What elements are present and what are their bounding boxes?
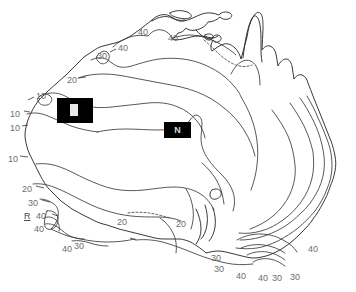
redaction-glyph-n: N (173, 126, 182, 135)
contour-40-sw-b (45, 224, 84, 239)
contour-interior-branch-b (186, 189, 193, 229)
contour-south-coast-run (136, 240, 253, 265)
contour-label: 10 (8, 155, 18, 164)
contour-label: 20 (22, 185, 32, 194)
contour-map-figure: 40 40 40 30 20 10 10 10 10 20 30 40 40 4… (0, 0, 356, 292)
contour-20-south-center (36, 164, 214, 210)
north-island-a (170, 11, 191, 19)
australia-contour-map-svg (0, 0, 356, 292)
contour-label: 30 (97, 52, 107, 61)
redaction-box-center: N (164, 122, 191, 138)
contour-label: 40 (258, 274, 268, 283)
lake-eyre (210, 189, 221, 199)
contour-se-loop-a (237, 234, 297, 252)
contour-label: 40 (138, 28, 148, 37)
contour-20-north (78, 74, 255, 156)
contour-label: 30 (28, 199, 38, 208)
contour-ne-interior (240, 95, 258, 190)
contour-label: 40 (34, 225, 44, 234)
contour-label: 10 (36, 92, 46, 101)
contour-ne-peak (231, 60, 260, 85)
contour-bight-branch (160, 218, 176, 253)
st-vincent-gulf (209, 208, 215, 241)
contour-label: 30 (211, 254, 221, 263)
annotation-r: R (24, 212, 31, 221)
contour-se-loop-d (253, 259, 285, 266)
contour-east-30 (240, 98, 324, 240)
contour-label: 30 (214, 265, 224, 274)
contour-label: 10 (10, 124, 20, 133)
contour-label: 40 (168, 34, 178, 43)
contour-label: 40 (62, 245, 72, 254)
eyre-peninsula (196, 209, 201, 244)
contour-label: 30 (290, 273, 300, 282)
contour-label: 40 (36, 212, 46, 221)
redaction-glyph-rect (70, 104, 78, 116)
inland-features (196, 189, 221, 244)
contour-label: 40 (118, 44, 128, 53)
contour-east-20 (239, 103, 314, 233)
contour-label: 10 (10, 110, 20, 119)
contour-label: 30 (272, 274, 282, 283)
contour-east-40 (236, 96, 332, 249)
contour-30-north (91, 58, 240, 94)
contour-label: 20 (117, 218, 127, 227)
contour-label: 20 (67, 76, 77, 85)
contour-label: 40 (236, 272, 246, 281)
contour-label: 40 (308, 245, 318, 254)
contour-lines-group (20, 30, 332, 266)
redaction-box-west (57, 98, 93, 123)
spencer-gulf (201, 205, 207, 239)
contour-label: 20 (176, 220, 186, 229)
cape-york-peninsula (243, 16, 262, 62)
arnhem-land-detail (152, 17, 185, 21)
contour-label: 30 (74, 242, 84, 251)
